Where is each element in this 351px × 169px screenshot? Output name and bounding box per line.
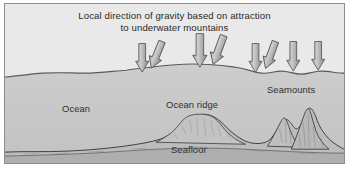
diagram-plate: Local direction of gravity based on attr… (4, 3, 345, 164)
figure-caption: Local direction of gravity based on attr… (5, 10, 344, 34)
caption-line-2: to underwater mountains (5, 22, 344, 34)
caption-line-1: Local direction of gravity based on attr… (5, 10, 344, 22)
label-ocean-ridge: Ocean ridge (166, 99, 218, 110)
figure-ocean-gravity: Local direction of gravity based on attr… (0, 0, 351, 169)
label-seamounts: Seamounts (267, 84, 315, 95)
label-ocean: Ocean (62, 103, 90, 114)
label-seafloor: Seafloor (171, 144, 207, 155)
